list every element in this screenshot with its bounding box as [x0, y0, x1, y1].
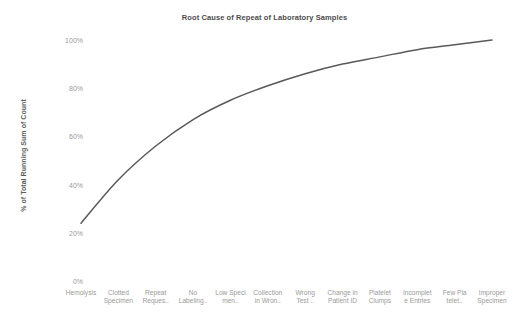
chart-container: Root Cause of Repeat of Laboratory Sampl…: [0, 0, 529, 314]
x-axis-tick-label-line: Improper: [466, 289, 518, 297]
x-axis-tick-label: ImproperSpecimen: [466, 289, 518, 306]
x-axis-tick-label-line: Specimen: [466, 297, 518, 305]
x-axis-tick-labels: HemolysisClottedSpecimenRepeatReques..No…: [0, 0, 529, 314]
